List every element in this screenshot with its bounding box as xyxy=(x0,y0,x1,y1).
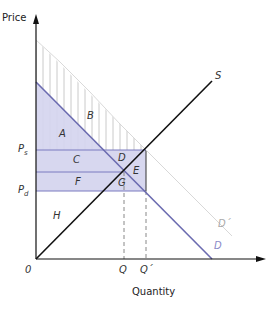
diagram-canvas xyxy=(0,0,268,309)
ps-label: Ps xyxy=(18,143,28,157)
y-axis-arrow xyxy=(33,14,39,24)
y-axis-label: Price xyxy=(2,12,26,23)
demand-shifted-label: D´ xyxy=(218,218,231,229)
region-d-label: D xyxy=(118,152,126,163)
x-axis-label: Quantity xyxy=(132,286,175,297)
region-f-label: F xyxy=(75,176,81,187)
region-g-label: G xyxy=(118,177,126,188)
region-e-label: E xyxy=(133,165,139,176)
x-axis-arrow xyxy=(256,256,266,262)
region-c-label: C xyxy=(73,154,80,165)
region-h-label: H xyxy=(53,210,61,221)
q-label: Q xyxy=(119,264,127,275)
origin-label: 0 xyxy=(25,264,31,275)
region-cf-shade xyxy=(36,150,146,191)
region-a-label: A xyxy=(59,128,66,139)
q-prime-label: Q´ xyxy=(140,264,153,275)
supply-label: S xyxy=(215,70,221,81)
region-b-label: B xyxy=(87,110,94,121)
demand-label: D xyxy=(214,240,222,251)
pd-label: Pd xyxy=(18,184,28,198)
